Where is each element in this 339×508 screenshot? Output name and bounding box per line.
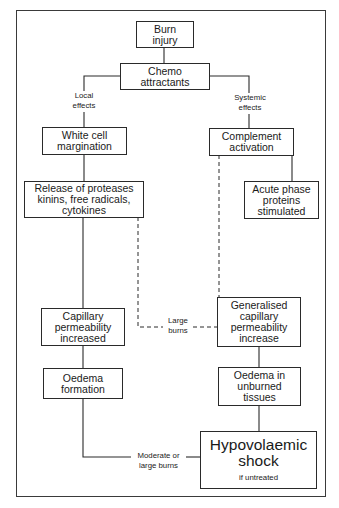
node-text: increased (60, 333, 106, 344)
node-text: injury (152, 35, 177, 46)
node-text: Burn (154, 24, 176, 35)
node-text: activation (229, 142, 273, 153)
node-white-cell-margination: White cell margination (42, 127, 127, 155)
node-hypovolaemic-shock: Hypovolaemic shock if untreated (200, 431, 317, 489)
node-acute-phase-proteins: Acute phase proteins stimulated (244, 181, 319, 219)
dashed-release-to-large-burns (138, 217, 163, 327)
node-text: attractants (140, 77, 189, 88)
node-text: Chemo (148, 66, 182, 77)
node-text: formation (61, 384, 105, 395)
node-title: shock (238, 453, 279, 469)
node-burn-injury: Burn injury (136, 21, 194, 48)
node-subtitle: if untreated (239, 472, 278, 484)
edge-label-large-burns: Large burns (163, 316, 193, 336)
label-text: Systemic (224, 93, 276, 103)
node-chemo-attractants: Chemo attractants (120, 63, 210, 90)
label-text: effects (224, 103, 276, 113)
node-text: Acute phase (252, 184, 310, 195)
connector-chemo-left (84, 76, 120, 92)
node-oedema-formation: Oedema formation (43, 368, 123, 399)
node-oedema-unburned-tissues: Oedema in unburned tissues (218, 367, 301, 406)
label-text: Local (62, 91, 106, 101)
connector-chemo-right (210, 76, 249, 94)
node-capillary-permeability-increased: Capillary permeability increased (41, 308, 125, 346)
node-text: Capillary (63, 311, 104, 322)
label-text: Moderate or (131, 451, 186, 461)
node-text: permeability (55, 322, 112, 333)
node-text: cytokines (62, 205, 106, 216)
edge-label-moderate-or-large-burns: Moderate or large burns (131, 451, 186, 471)
label-text: Large (163, 316, 193, 326)
node-release-of-proteases: Release of proteases kinins, free radica… (24, 181, 144, 218)
node-generalised-capillary-permeability: Generalised capillary permeability incre… (217, 297, 301, 347)
node-complement-activation: Complement activation (209, 128, 294, 156)
node-text: Oedema (63, 373, 103, 384)
label-text: burns (163, 326, 193, 336)
node-text: tissues (243, 392, 276, 403)
edge-label-systemic-effects: Systemic effects (224, 93, 276, 113)
edge-label-local-effects: Local effects (62, 91, 106, 111)
label-text: effects (62, 101, 106, 111)
node-text: increase (239, 333, 279, 344)
burn-injury-flowchart: Burn injury Chemo attractants Local effe… (0, 0, 339, 508)
node-text: stimulated (258, 206, 306, 217)
node-title: Hypovolaemic (210, 437, 307, 453)
node-text: proteins (263, 195, 300, 206)
connector-oedema-to-moderate-label (83, 398, 131, 457)
node-text: margination (57, 141, 112, 152)
label-text: large burns (131, 461, 186, 471)
